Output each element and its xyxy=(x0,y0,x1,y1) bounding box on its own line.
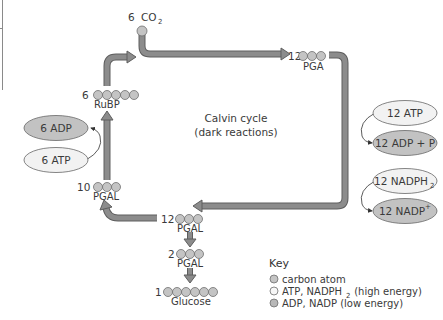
arrow-atp6-to-adp6 xyxy=(86,128,101,160)
title-line-2: (dark reactions) xyxy=(194,126,277,138)
pgal10-count: 10 xyxy=(77,181,90,193)
rubp-count: 6 xyxy=(82,89,89,101)
rubp-label: RuBP xyxy=(94,99,120,110)
svg-text:12 NADP: 12 NADP xyxy=(379,205,425,217)
arrow-atp12-to-adp12 xyxy=(361,113,375,143)
ellipse-adp-12: 12 ADP + P xyxy=(373,131,437,156)
co2-count: 6 xyxy=(128,11,135,23)
low-energy-icon xyxy=(270,299,278,307)
pgal2-label: PGAL xyxy=(177,258,204,269)
pgal10-label: PGAL xyxy=(93,191,120,202)
carbon-atom-icon xyxy=(270,275,278,283)
molecule-pgal-2: 2 PGAL xyxy=(168,248,204,269)
molecule-glucose: 1 Glucose xyxy=(155,286,218,307)
carbon-atom-icon xyxy=(121,91,130,100)
svg-text:12 ADP + P: 12 ADP + P xyxy=(375,137,435,149)
molecule-pgal-12: 12 PGAL xyxy=(161,213,204,234)
ellipse-nadp-12: 12 NADP + xyxy=(373,199,437,224)
legend-item-high-energy: ATP, NADPH xyxy=(282,286,342,297)
arrow-nadph-to-nadp xyxy=(361,181,375,211)
high-energy-icon xyxy=(270,287,278,295)
svg-text:2: 2 xyxy=(430,182,434,190)
pgal12-count: 12 xyxy=(161,213,174,225)
legend-title: Key xyxy=(269,257,289,270)
arrow-pgal12-to-pgal2 xyxy=(184,232,196,247)
carbon-atom-icon xyxy=(308,52,317,61)
arrow-co2-to-pga xyxy=(142,34,290,60)
svg-text:6 ADP: 6 ADP xyxy=(40,122,72,134)
pga-label: PGA xyxy=(303,61,324,72)
pgal12-label: PGAL xyxy=(177,223,204,234)
co2-subscript: 2 xyxy=(158,18,162,26)
legend-item-low-energy: ADP, NADP (low energy) xyxy=(282,298,403,309)
legend-item-carbon: carbon atom xyxy=(282,274,346,285)
co2-label: CO xyxy=(141,11,157,23)
pgal2-count: 2 xyxy=(168,248,175,260)
ellipse-adp-6: 6 ADP xyxy=(24,116,88,141)
svg-text:12 ATP: 12 ATP xyxy=(387,107,423,119)
ellipse-atp-6: 6 ATP xyxy=(24,148,88,173)
title-line-1: Calvin cycle xyxy=(205,112,268,124)
carbon-atom-icon xyxy=(137,26,147,36)
svg-text:12 NADPH: 12 NADPH xyxy=(374,175,428,187)
molecule-co2: 6 CO 2 xyxy=(128,11,162,36)
arrow-pgal12-to-pgal10 xyxy=(100,200,157,218)
svg-text:6 ATP: 6 ATP xyxy=(41,154,70,166)
molecule-rubp: 6 RuBP xyxy=(82,89,139,110)
svg-text:+: + xyxy=(425,203,431,211)
arrow-pgal10-to-rubp xyxy=(101,111,113,180)
ellipse-nadph-12: 12 NADPH 2 xyxy=(373,169,437,194)
arrow-rubp-to-co2 xyxy=(107,51,136,86)
carbon-atom-icon xyxy=(299,52,308,61)
molecule-pga: 12 PGA xyxy=(288,50,326,72)
molecule-pgal-10: 10 PGAL xyxy=(77,181,121,202)
carbon-atom-icon xyxy=(130,91,139,100)
legend: Key carbon atom ATP, NADPH 2 (high energ… xyxy=(269,257,422,309)
glucose-label: Glucose xyxy=(171,296,211,307)
diagram-title: Calvin cycle (dark reactions) xyxy=(194,112,277,138)
arrow-pgal2-to-glucose xyxy=(184,268,196,283)
calvin-cycle-diagram: 6 CO 2 12 PGA 12 PGAL 2 PGAL 1 Glucose xyxy=(0,0,443,320)
glucose-count: 1 xyxy=(155,286,162,298)
carbon-atom-icon xyxy=(317,52,326,61)
svg-text:(high energy): (high energy) xyxy=(351,286,422,297)
ellipse-atp-12: 12 ATP xyxy=(373,101,437,126)
